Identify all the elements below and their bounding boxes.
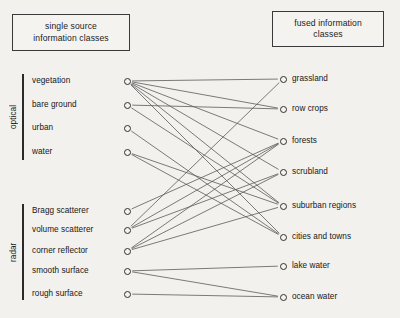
link-vegetation-to-row_crops (132, 82, 278, 108)
fused-node-scrubland[interactable] (280, 169, 287, 176)
fused-node-suburban_regions[interactable] (280, 203, 287, 210)
link-rough_surface-to-ocean_water (132, 294, 278, 297)
source-node-rough_surface[interactable] (124, 291, 131, 298)
source-label-water: water (32, 147, 52, 156)
link-corner_reflector-to-forests (131, 144, 279, 248)
fused-node-cities_and_towns[interactable] (280, 234, 287, 241)
link-vegetation-to-grassland (132, 79, 278, 81)
link-volume_scatterer-to-grassland (131, 83, 280, 227)
source-label-vegetation: vegetation (32, 76, 70, 85)
source-label-bare_ground: bare ground (32, 100, 77, 109)
fused-label-ocean_water: ocean water (292, 292, 337, 301)
source-label-urban: urban (32, 123, 53, 132)
source-label-rough_surface: rough surface (32, 289, 83, 298)
source-node-bragg_scatterer[interactable] (124, 208, 131, 215)
link-urban-to-cities_and_towns (131, 131, 278, 234)
group-bracket-optical (22, 74, 24, 160)
header-box-fused: fused informationclasses (272, 11, 384, 47)
header-right-text: fused informationclasses (294, 18, 362, 41)
link-layer (131, 79, 280, 297)
fused-node-row_crops[interactable] (280, 106, 287, 113)
group-bracket-radar (22, 204, 24, 300)
link-smooth_surface-to-ocean_water (132, 272, 278, 296)
link-smooth_surface-to-lake_water (132, 266, 278, 271)
source-node-vegetation[interactable] (124, 78, 131, 85)
group-label-radar: radar (9, 204, 18, 300)
source-node-corner_reflector[interactable] (124, 248, 131, 255)
fused-label-scrubland: scrubland (292, 167, 328, 176)
fused-node-lake_water[interactable] (280, 263, 287, 270)
fused-label-grassland: grassland (292, 74, 328, 83)
link-corner_reflector-to-suburban_regions (132, 207, 278, 249)
link-vegetation-to-forests (132, 83, 278, 139)
group-label-optical: optical (9, 74, 18, 160)
link-water-to-cities_and_towns (132, 154, 279, 234)
source-node-urban[interactable] (124, 125, 131, 132)
fused-node-grassland[interactable] (280, 76, 287, 83)
fused-label-row_crops: row crops (292, 104, 328, 113)
fused-label-suburban_regions: suburban regions (292, 201, 356, 210)
link-bare_ground-to-suburban_regions (131, 108, 278, 203)
header-box-single-source: single sourceinformation classes (12, 14, 130, 51)
fused-label-lake_water: lake water (292, 261, 330, 270)
source-node-water[interactable] (124, 149, 131, 156)
source-label-bragg_scatterer: Bragg scatterer (32, 206, 89, 215)
link-water-to-suburban_regions (132, 154, 278, 205)
link-bragg_scatterer-to-forests (132, 143, 279, 209)
source-node-bare_ground[interactable] (124, 102, 131, 109)
link-volume_scatterer-to-scrubland (132, 174, 278, 228)
fused-node-ocean_water[interactable] (280, 294, 287, 301)
source-label-smooth_surface: smooth surface (32, 266, 89, 275)
source-label-volume_scatterer: volume scatterer (32, 225, 93, 234)
fused-label-forests: forests (292, 136, 317, 145)
source-label-corner_reflector: corner reflector (32, 246, 88, 255)
source-node-volume_scatterer[interactable] (124, 227, 131, 234)
fused-label-cities_and_towns: cities and towns (292, 232, 351, 241)
header-left-text: single sourceinformation classes (33, 21, 108, 44)
fused-node-forests[interactable] (280, 138, 287, 145)
source-node-smooth_surface[interactable] (124, 268, 131, 275)
